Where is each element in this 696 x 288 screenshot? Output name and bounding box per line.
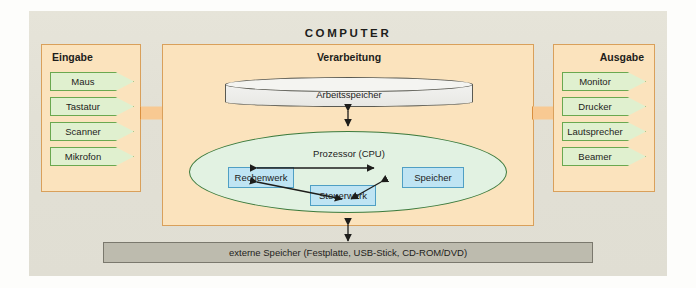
memory-label: Arbeitsspeicher [225, 89, 473, 100]
diagram-canvas: COMPUTER Eingabe Maus Tastatur Scanner M… [0, 0, 696, 288]
input-device-mikrofon[interactable]: Mikrofon [50, 147, 134, 166]
input-device-scanner[interactable]: Scanner [50, 122, 134, 141]
output-panel: Ausgabe Monitor Drucker Lautsprecher Bea… [553, 44, 655, 192]
diagram-frame: COMPUTER Eingabe Maus Tastatur Scanner M… [29, 11, 667, 276]
cpu-ellipse: Prozessor (CPU) Rechenwerk Steuerwerk Sp… [189, 131, 507, 213]
output-panel-title: Ausgabe [600, 51, 644, 63]
input-device-list: Maus Tastatur Scanner Mikrofon [50, 72, 134, 172]
input-device-label: Scanner [51, 123, 115, 142]
input-device-label: Maus [51, 73, 115, 92]
output-device-label: Lautsprecher [563, 123, 627, 142]
processing-panel: Verarbeitung Arbeitsspeicher Prozessor (… [162, 44, 534, 226]
cpu-label: Prozessor (CPU) [190, 148, 508, 159]
input-device-label: Mikrofon [51, 148, 115, 167]
input-panel-title: Eingabe [52, 51, 93, 63]
output-device-monitor[interactable]: Monitor [562, 72, 646, 91]
cpu-unit-steuerwerk[interactable]: Steuerwerk [310, 185, 376, 206]
output-device-lautsprecher[interactable]: Lautsprecher [562, 122, 646, 141]
cpu-unit-rechenwerk[interactable]: Rechenwerk [228, 167, 294, 188]
diagram-title: COMPUTER [29, 27, 667, 39]
output-device-list: Monitor Drucker Lautsprecher Beamer [562, 72, 646, 172]
output-device-drucker[interactable]: Drucker [562, 97, 646, 116]
output-device-label: Monitor [563, 73, 627, 92]
memory-cylinder: Arbeitsspeicher [225, 77, 473, 107]
input-panel: Eingabe Maus Tastatur Scanner Mikrofon [41, 44, 141, 192]
processing-panel-title: Verarbeitung [163, 51, 535, 63]
output-device-label: Beamer [563, 148, 627, 167]
input-device-tastatur[interactable]: Tastatur [50, 97, 134, 116]
input-device-label: Tastatur [51, 98, 115, 117]
input-device-maus[interactable]: Maus [50, 72, 134, 91]
output-device-label: Drucker [563, 98, 627, 117]
output-device-beamer[interactable]: Beamer [562, 147, 646, 166]
cpu-unit-speicher[interactable]: Speicher [402, 167, 464, 188]
external-storage-bar[interactable]: externe Speicher (Festplatte, USB-Stick,… [103, 242, 593, 263]
